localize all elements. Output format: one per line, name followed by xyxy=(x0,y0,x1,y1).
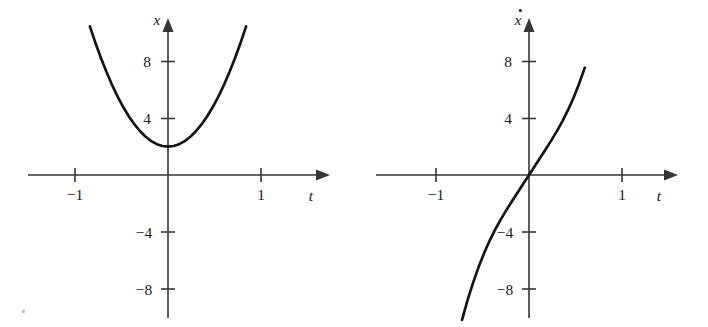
t-axis-arrow-icon xyxy=(316,170,330,181)
position-plot: −1 1 8 4 −4 −8 x t xyxy=(0,0,354,327)
t-tick-label-pos1: 1 xyxy=(257,186,265,203)
velocity-plot: −1 1 8 4 −4 −8 x t xyxy=(354,0,708,327)
xdot-tick-label-8: 8 xyxy=(504,53,512,70)
t-tick-label-pos1: 1 xyxy=(618,186,626,203)
t-tick-label-neg1: −1 xyxy=(67,186,84,203)
y-axis-label-x: x xyxy=(153,11,161,28)
xdot-axis-arrow-icon xyxy=(524,18,535,32)
xdot-tick-label-neg8: −8 xyxy=(497,281,514,298)
xdot-tick-label-neg4: −4 xyxy=(497,224,514,241)
x-axis-arrow-icon xyxy=(163,18,174,32)
x-axis-label-t: t xyxy=(309,187,314,204)
velocity-curve xyxy=(462,68,585,320)
t-axis-group xyxy=(28,170,330,181)
x-tick-label-neg4: −4 xyxy=(136,224,153,241)
x-tick-label-8: 8 xyxy=(143,53,151,70)
t-tick-label-neg1: −1 xyxy=(428,186,445,203)
figure-root: −1 1 8 4 −4 −8 x t −1 1 xyxy=(0,0,708,327)
x-tick-label-neg8: −8 xyxy=(136,281,153,298)
y-axis-label-xdot-base: x xyxy=(514,11,522,28)
t-axis-arrow-icon xyxy=(664,170,678,181)
xdot-accent-dot-icon xyxy=(519,9,522,12)
scan-speck-artifact xyxy=(22,310,25,313)
x-tick-label-4: 4 xyxy=(143,110,151,127)
x-axis-group xyxy=(163,18,174,318)
y-axis-label-xdot-group: x xyxy=(514,9,522,28)
x-axis-label-t: t xyxy=(657,187,662,204)
xdot-tick-label-4: 4 xyxy=(504,110,512,127)
